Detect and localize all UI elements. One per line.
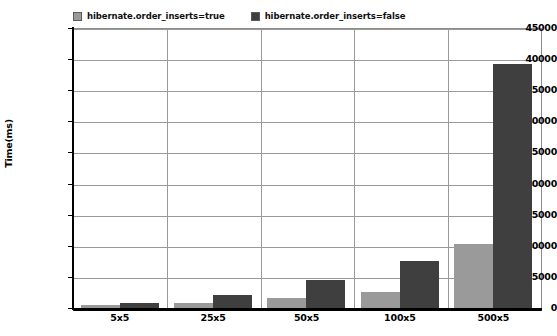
legend-swatch-order-inserts-false: [251, 12, 260, 21]
bar-500x5-series2: [493, 64, 532, 308]
legend-label-order-inserts-true: hibernate.order_inserts=true: [87, 12, 225, 21]
legend-item-order-inserts-true: hibernate.order_inserts=true: [73, 12, 225, 21]
bar-100x5-series2: [400, 261, 439, 308]
bar-group-5x5: [73, 28, 166, 308]
legend-label-order-inserts-false: hibernate.order_inserts=false: [265, 12, 406, 21]
x-tick-label-5x5: 5x5: [73, 313, 166, 323]
bar-group-100x5: [353, 28, 446, 308]
x-tick-label-500x5: 500x5: [447, 313, 540, 323]
bar-50x5-series2: [306, 280, 345, 308]
bar-group-50x5: [260, 28, 353, 308]
bar-group-25x5: [166, 28, 259, 308]
legend-item-order-inserts-false: hibernate.order_inserts=false: [251, 12, 406, 21]
x-tick-label-100x5: 100x5: [353, 313, 446, 323]
bars-layer: [73, 28, 540, 308]
bar-500x5-series1: [454, 244, 493, 308]
bar-group-500x5: [447, 28, 540, 308]
x-tick-label-25x5: 25x5: [166, 313, 259, 323]
bar-chart: hibernate.order_inserts=true hibernate.o…: [0, 0, 557, 336]
y-axis-title: Time(ms): [3, 119, 14, 168]
chart-legend: hibernate.order_inserts=true hibernate.o…: [73, 9, 405, 23]
x-axis-line: [72, 308, 542, 310]
bar-50x5-series1: [267, 298, 306, 308]
legend-swatch-order-inserts-true: [73, 12, 82, 21]
bar-100x5-series1: [361, 292, 400, 308]
x-tick-label-50x5: 50x5: [260, 313, 353, 323]
bar-25x5-series2: [213, 295, 252, 308]
